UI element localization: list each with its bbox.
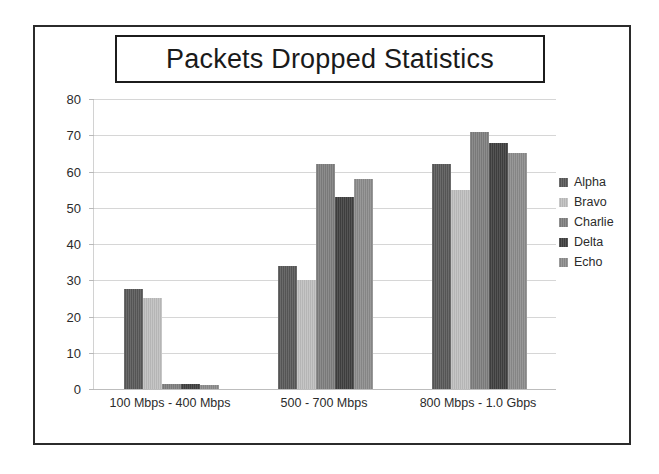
legend-item-charlie[interactable]: Charlie (559, 212, 649, 232)
chart-title-box: Packets Dropped Statistics (115, 35, 545, 83)
x-axis-category-label: 500 - 700 Mbps (247, 395, 401, 411)
bar-alpha (124, 289, 143, 389)
bar-group (402, 99, 556, 389)
bar-group (248, 99, 402, 389)
plot-area (93, 99, 556, 389)
legend-swatch-icon (559, 198, 568, 207)
bar-charlie (162, 384, 181, 389)
plot-wrapper: 01020304050607080 100 Mbps - 400 Mbps500… (49, 99, 619, 439)
legend-item-echo[interactable]: Echo (559, 252, 649, 272)
x-axis-labels: 100 Mbps - 400 Mbps500 - 700 Mbps800 Mbp… (93, 395, 555, 411)
bar-delta (335, 197, 354, 389)
bar-echo (200, 385, 219, 389)
legend-label: Delta (574, 235, 603, 249)
bar-bravo (297, 280, 316, 389)
y-axis-tick-label: 60 (67, 164, 81, 179)
legend-swatch-icon (559, 238, 568, 247)
legend-item-delta[interactable]: Delta (559, 232, 649, 252)
y-axis-tick-label: 0 (74, 382, 81, 397)
x-axis-category-label: 100 Mbps - 400 Mbps (93, 395, 247, 411)
legend-item-alpha[interactable]: Alpha (559, 172, 649, 192)
bar-bravo (143, 298, 162, 389)
bar-charlie (316, 164, 335, 389)
gridline (94, 389, 556, 390)
bar-group (94, 99, 248, 389)
legend-label: Alpha (574, 175, 606, 189)
chart-frame: Packets Dropped Statistics 0102030405060… (33, 25, 631, 445)
page-title: Packets Dropped Statistics (166, 44, 494, 75)
legend-swatch-icon (559, 178, 568, 187)
legend-label: Charlie (574, 215, 614, 229)
y-axis-tick-label: 20 (67, 309, 81, 324)
bar-delta (181, 384, 200, 389)
bar-echo (508, 153, 527, 389)
legend-swatch-icon (559, 218, 568, 227)
bar-echo (354, 179, 373, 389)
bar-charlie (470, 132, 489, 389)
y-axis-tick-label: 50 (67, 200, 81, 215)
bar-delta (489, 143, 508, 390)
chart-legend: AlphaBravoCharlieDeltaEcho (559, 172, 649, 272)
bar-alpha (432, 164, 451, 389)
legend-item-bravo[interactable]: Bravo (559, 192, 649, 212)
x-axis-category-label: 800 Mbps - 1.0 Gbps (401, 395, 555, 411)
y-axis-tick-label: 40 (67, 237, 81, 252)
y-axis-tick-label: 10 (67, 345, 81, 360)
y-axis-tick-label: 70 (67, 128, 81, 143)
legend-label: Bravo (574, 195, 607, 209)
bar-bravo (451, 190, 470, 389)
bar-layer (94, 99, 556, 389)
y-axis-tick-label: 30 (67, 273, 81, 288)
legend-swatch-icon (559, 258, 568, 267)
bar-alpha (278, 266, 297, 389)
y-axis-tickmark (89, 389, 94, 390)
y-axis-tick-label: 80 (67, 92, 81, 107)
legend-label: Echo (574, 255, 603, 269)
y-axis: 01020304050607080 (49, 99, 85, 389)
